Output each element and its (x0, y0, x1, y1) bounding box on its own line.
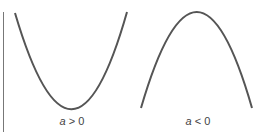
relation-symbol: < (192, 115, 205, 127)
relation-symbol: > (66, 115, 79, 127)
label-a-negative: a < 0 (186, 115, 211, 127)
value: 0 (78, 115, 84, 127)
parabola-diagram (0, 0, 266, 137)
upward-parabola (15, 12, 127, 109)
value: 0 (204, 115, 210, 127)
downward-parabola (141, 12, 252, 108)
label-a-positive: a > 0 (60, 115, 85, 127)
